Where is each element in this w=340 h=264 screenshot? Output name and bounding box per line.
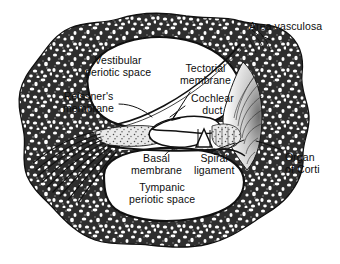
cochlea-cross-section-figure: Area vasculosa Vestibular periotic space…: [0, 0, 340, 264]
tympanic-periotic-space: [104, 148, 244, 221]
cochlea-diagram-svg: [0, 0, 340, 264]
